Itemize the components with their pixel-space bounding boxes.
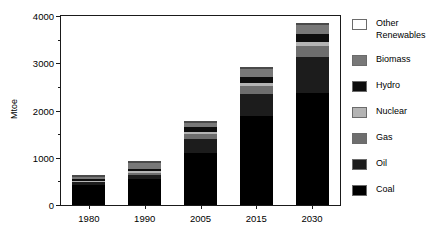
bar-segment-biomass: [184, 123, 217, 127]
legend-item-biomass[interactable]: Biomass: [352, 54, 411, 66]
y-axis-tick: [56, 111, 61, 112]
plot-inner: 0100020003000400019801990200520152030: [61, 16, 340, 205]
legend-swatch-coal: [352, 185, 367, 196]
bar-2005: [184, 122, 217, 205]
legend-item-oil[interactable]: Oil: [352, 158, 387, 170]
bar-segment-hydro: [128, 169, 161, 172]
bar-segment-coal: [240, 116, 273, 205]
legend-item-coal[interactable]: Coal: [352, 184, 395, 196]
bar-segment-oil: [240, 94, 273, 116]
x-axis-tick-label: 1980: [78, 213, 99, 224]
legend-label-hydro: Hydro: [376, 80, 400, 92]
bar-segment-coal: [128, 179, 161, 205]
y-axis-tick: [56, 205, 61, 206]
legend-item-hydro[interactable]: Hydro: [352, 80, 400, 92]
bar-segment-coal: [72, 185, 105, 205]
bar-2030: [296, 23, 329, 205]
legend-label-oil: Oil: [376, 158, 387, 170]
y-axis-tick-label: 4000: [14, 11, 54, 22]
plot-area: 0100020003000400019801990200520152030: [60, 15, 341, 206]
legend-item-nuclear[interactable]: Nuclear: [352, 106, 407, 118]
bar-segment-coal: [184, 153, 217, 205]
bar-segment-nuclear: [296, 42, 329, 46]
bar-segment-oil: [128, 175, 161, 179]
bar-segment-hydro: [72, 179, 105, 181]
y-axis-minor-tick: [58, 40, 61, 41]
x-axis-tick-label: 2015: [246, 213, 267, 224]
y-axis-minor-tick: [58, 181, 61, 182]
bar-segment-gas: [240, 86, 273, 95]
bar-segment-oil: [296, 57, 329, 93]
bar-segment-nuclear: [240, 83, 273, 86]
bar-segment-hydro: [184, 127, 217, 132]
bar-segment-oil: [184, 139, 217, 153]
x-axis-tick: [89, 205, 90, 209]
legend-label-nuclear: Nuclear: [376, 106, 407, 118]
legend-label-other-renewables: Other Renewables: [376, 18, 426, 41]
legend-swatch-gas: [352, 133, 367, 144]
x-axis-tick-label: 2005: [190, 213, 211, 224]
y-axis-tick: [56, 16, 61, 17]
legend-label-biomass: Biomass: [376, 54, 411, 66]
legend-swatch-biomass: [352, 55, 367, 66]
legend-swatch-other-renewables: [352, 19, 367, 30]
legend-item-other-renewables[interactable]: Other Renewables: [352, 18, 426, 41]
bar-segment-gas: [296, 46, 329, 57]
bar-segment-hydro: [240, 77, 273, 83]
bar-segment-biomass: [296, 25, 329, 34]
bar-segment-other-renewables: [296, 23, 329, 25]
bar-segment-coal: [296, 93, 329, 205]
bar-segment-nuclear: [128, 171, 161, 172]
bar-segment-other-renewables: [240, 67, 273, 69]
legend-swatch-nuclear: [352, 107, 367, 118]
x-axis-tick: [145, 205, 146, 209]
legend-item-gas[interactable]: Gas: [352, 132, 393, 144]
x-axis-tick-label: 2030: [302, 213, 323, 224]
bar-1980: [72, 176, 105, 205]
legend-swatch-hydro: [352, 81, 367, 92]
y-axis-tick: [56, 158, 61, 159]
legend-label-coal: Coal: [376, 184, 395, 196]
bar-segment-hydro: [296, 34, 329, 41]
bar-segment-other-renewables: [128, 161, 161, 163]
y-axis-minor-tick: [58, 134, 61, 135]
x-axis-tick: [256, 205, 257, 209]
bar-segment-biomass: [240, 69, 273, 77]
y-axis-tick-label: 1000: [14, 152, 54, 163]
y-axis-tick-label: 3000: [14, 58, 54, 69]
bar-segment-gas: [128, 173, 161, 175]
bar-segment-gas: [72, 181, 105, 182]
stacked-bar-chart: Mtoe 01000200030004000198019902005201520…: [0, 0, 445, 244]
bar-2015: [240, 68, 273, 205]
y-axis-minor-tick: [58, 87, 61, 88]
bar-segment-gas: [184, 134, 217, 139]
y-axis-tick: [56, 63, 61, 64]
bar-segment-biomass: [128, 163, 161, 169]
x-axis-tick-label: 1990: [134, 213, 155, 224]
legend-label-gas: Gas: [376, 132, 393, 144]
bar-segment-nuclear: [184, 132, 217, 134]
bar-segment-other-renewables: [72, 175, 105, 177]
x-axis-tick: [312, 205, 313, 209]
y-axis-tick-label: 0: [14, 200, 54, 211]
legend-swatch-oil: [352, 159, 367, 170]
bar-segment-biomass: [72, 177, 105, 179]
bar-segment-other-renewables: [184, 121, 217, 123]
bar-segment-oil: [72, 182, 105, 185]
bar-1990: [128, 162, 161, 205]
y-axis-tick-label: 2000: [14, 105, 54, 116]
x-axis-tick: [201, 205, 202, 209]
